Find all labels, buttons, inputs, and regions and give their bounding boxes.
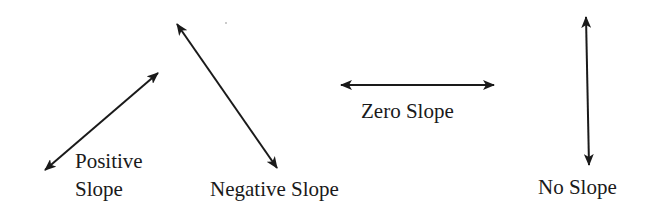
speck-mark (225, 22, 227, 24)
negative-slope-line (177, 24, 277, 168)
zero-slope-label: Zero Slope (361, 101, 454, 122)
positive-slope-label-line1: Positive (75, 151, 143, 172)
negative-slope-label: Negative Slope (210, 179, 339, 200)
no-slope-line (586, 17, 589, 165)
positive-slope-label-line2: Slope (75, 179, 123, 200)
no-slope-label: No Slope (538, 177, 617, 198)
